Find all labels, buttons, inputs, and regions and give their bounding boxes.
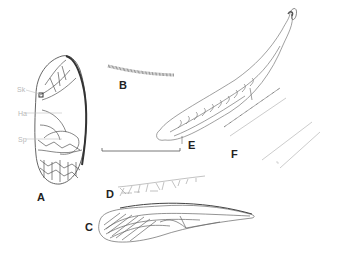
panel-a-drawing bbox=[35, 56, 87, 184]
panel-label-f: F bbox=[231, 149, 238, 160]
annotation-ha: Ha bbox=[18, 110, 27, 117]
annotation-sp: Sp bbox=[18, 136, 27, 143]
panel-label-b: B bbox=[119, 80, 127, 91]
panel-d-drawing bbox=[118, 176, 205, 196]
figure-plate: A B C D E F Sk Ha Sp bbox=[0, 0, 340, 263]
figure-illustration bbox=[0, 0, 340, 263]
panel-c-drawing bbox=[99, 203, 254, 242]
panel-e-drawing bbox=[157, 9, 297, 144]
panel-label-a: A bbox=[37, 192, 45, 203]
panel-label-d: D bbox=[106, 189, 114, 200]
scale-bar bbox=[102, 148, 180, 151]
panel-b-drawing bbox=[108, 66, 174, 75]
panel-label-c: C bbox=[85, 222, 93, 233]
panel-label-e: E bbox=[188, 140, 195, 151]
annotation-sk: Sk bbox=[17, 86, 25, 93]
